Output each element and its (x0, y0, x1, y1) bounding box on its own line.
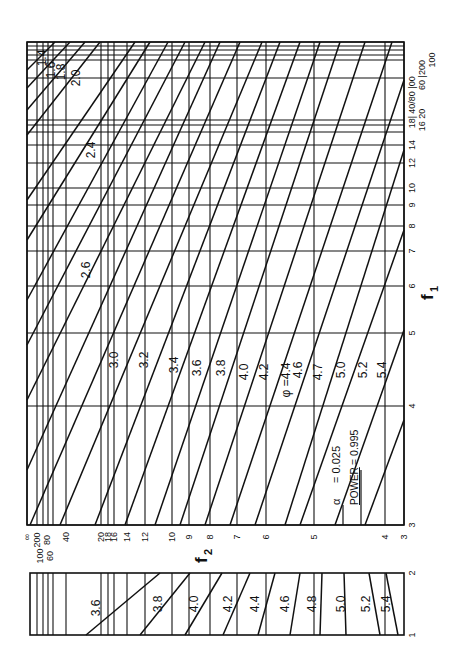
phi-curve (180, 42, 340, 525)
phi-curve-label-strip: 4.0 (187, 595, 201, 612)
phi-curve (27, 42, 185, 345)
svg-text:1: 1 (407, 632, 417, 637)
f1-axis-title: f 1 (418, 286, 440, 300)
phi-curve-label-strip: 5.4 (379, 595, 393, 612)
f1-tick-label: 1 (407, 632, 417, 637)
svg-text:5.4: 5.4 (375, 361, 389, 378)
svg-text:100: 100 (427, 52, 437, 67)
svg-text:5.0: 5.0 (334, 361, 348, 378)
svg-text:α: α (330, 498, 342, 505)
svg-text:9: 9 (184, 534, 194, 539)
svg-text:4: 4 (380, 534, 390, 539)
svg-text:5.0: 5.0 (334, 595, 348, 612)
svg-text:f: f (418, 294, 437, 300)
f1-tick-label: 60 |200 (417, 60, 427, 90)
phi-curve-label-strip: 4.8 (305, 595, 319, 612)
svg-text:2.6: 2.6 (79, 261, 93, 278)
f2-tick-label: 40 (61, 532, 71, 542)
f1-tick-label: 100 (427, 52, 437, 67)
svg-text:3.4: 3.4 (167, 356, 181, 373)
svg-text:8: 8 (407, 223, 417, 228)
phi-curve-strip (140, 573, 190, 635)
svg-text:3: 3 (399, 534, 409, 539)
svg-text:9: 9 (407, 202, 417, 207)
svg-text:4.8: 4.8 (305, 595, 319, 612)
svg-text:7: 7 (407, 248, 417, 253)
svg-text:5.2: 5.2 (356, 361, 370, 378)
svg-text:6: 6 (407, 283, 417, 288)
svg-text:12: 12 (407, 158, 417, 168)
phi-curve-label-strip: 4.6 (278, 595, 292, 612)
svg-text:2.0: 2.0 (69, 69, 83, 86)
svg-text:4.7: 4.7 (311, 363, 325, 380)
svg-text:5.2: 5.2 (359, 595, 373, 612)
alpha-annotation: α = 0.025 (330, 446, 342, 505)
f2-tick-label: 6 (261, 534, 271, 539)
f1-tick-label: 10 (407, 183, 417, 193)
phi-curve-label-strip: 4.2 (221, 595, 235, 612)
f2-tick-label: 20 (96, 532, 106, 542)
f1-tick-label: 18| (407, 116, 417, 128)
phi-curve-label-strip: 3.8 (151, 595, 165, 612)
f1-tick-label: 40/80 |00 (407, 76, 417, 113)
phi-curve (60, 42, 262, 525)
power-chart: 45678910121440/80 |0060 |20010018|16 203… (0, 0, 463, 669)
svg-text:3.2: 3.2 (137, 351, 151, 368)
phi-curve-label: 4.6 (291, 361, 305, 378)
phi-curve-label: 1.8 (54, 63, 68, 80)
svg-text:3.8: 3.8 (151, 595, 165, 612)
svg-text:16 20: 16 20 (417, 109, 427, 132)
phi-curve (335, 330, 404, 525)
f1-tick-label: 4 (407, 403, 417, 408)
f2-tick-label: 5 (309, 534, 319, 539)
power-annotation: POWER = 0.995 (348, 430, 360, 505)
svg-text:3.8: 3.8 (214, 359, 228, 376)
f2-tick-label: 12 (140, 532, 150, 542)
f1-tick-label: 12 (407, 158, 417, 168)
svg-text:1: 1 (428, 286, 440, 292)
svg-text:2.4: 2.4 (84, 141, 98, 158)
phi-curve (230, 42, 392, 525)
svg-text:100: 100 (35, 548, 45, 563)
svg-text:3.0: 3.0 (107, 351, 121, 368)
phi-curve-label-strip: 3.6 (89, 599, 103, 616)
f2-tick-label: 60 (45, 551, 55, 561)
f2-tick-label: 8 (205, 534, 215, 539)
phi-curve-label: 3.0 (107, 351, 121, 368)
phi-curve (125, 42, 300, 525)
svg-text:4.0: 4.0 (187, 595, 201, 612)
svg-text:40: 40 (61, 532, 71, 542)
f2-tick-label: 4 (380, 534, 390, 539)
phi-curve-label: 2.4 (84, 141, 98, 158)
f2-tick-label: 3 (399, 534, 409, 539)
phi-curve-label: 2.6 (79, 261, 93, 278)
phi-curve-label: 3.6 (190, 359, 204, 376)
svg-text:2: 2 (202, 549, 214, 555)
svg-text:14: 14 (407, 140, 417, 150)
svg-text:= 0.025: = 0.025 (330, 446, 342, 483)
f1-tick-label: 7 (407, 248, 417, 253)
svg-text:∞: ∞ (22, 534, 32, 540)
svg-text:80: 80 (42, 535, 52, 545)
svg-text:60: 60 (45, 551, 55, 561)
svg-text:3.6: 3.6 (190, 359, 204, 376)
svg-text:5.4: 5.4 (379, 595, 393, 612)
svg-text:60 |200: 60 |200 (417, 60, 427, 90)
f2-tick-label: ∞ (22, 534, 32, 540)
svg-text:1.8: 1.8 (54, 63, 68, 80)
svg-text:4.4: 4.4 (248, 595, 262, 612)
phi-curve-label: 3.4 (167, 356, 181, 373)
svg-text:4.0: 4.0 (237, 363, 251, 380)
phi-curve-label: 3.8 (214, 359, 228, 376)
phi-curve-label-strip: 4.4 (248, 595, 262, 612)
svg-text:4.6: 4.6 (291, 361, 305, 378)
svg-text:5: 5 (407, 330, 417, 335)
phi-curve-label: 5.2 (356, 361, 370, 378)
svg-text:10: 10 (407, 183, 417, 193)
svg-text:14: 14 (122, 532, 132, 542)
svg-text:= 0.995: = 0.995 (348, 430, 360, 465)
phi-curve (30, 42, 240, 525)
strip-panel-curves (86, 573, 398, 635)
svg-text:4: 4 (407, 403, 417, 408)
svg-text:f: f (192, 557, 211, 563)
